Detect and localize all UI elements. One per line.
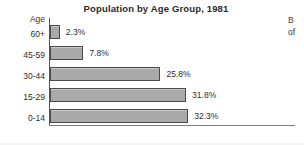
bar-0-14 [50, 109, 188, 123]
axis-header-label: Age [0, 14, 45, 24]
scan-edge-artifact [0, 143, 304, 145]
bar-value-30-44: 25.8% [166, 69, 190, 79]
category-label-0-14: 0-14 [0, 113, 45, 123]
chart-title: Population by Age Group, 1981 [56, 3, 256, 14]
bar-15-29 [50, 88, 186, 102]
bar-value-0-14: 32.3% [194, 111, 218, 121]
category-label-15-29: 15-29 [0, 92, 45, 102]
bar-60-plus [50, 25, 60, 39]
bar-value-45-59: 7.8% [89, 48, 108, 58]
clipped-edge-text: B of [288, 14, 304, 38]
category-label-30-44: 30-44 [0, 71, 45, 81]
x-axis-line [49, 125, 295, 126]
bar-45-59 [50, 46, 83, 60]
clipped-edge-text-line2: of [288, 26, 304, 38]
category-label-45-59: 45-59 [0, 50, 45, 60]
bar-30-44 [50, 67, 160, 81]
bar-chart: Population by Age Group, 1981 Age 60+ 45… [0, 0, 304, 145]
bar-value-15-29: 31.8% [192, 90, 216, 100]
clipped-edge-text-line1: B [288, 14, 304, 26]
bar-value-60-plus: 2.3% [66, 27, 85, 37]
category-label-60-plus: 60+ [0, 29, 45, 39]
